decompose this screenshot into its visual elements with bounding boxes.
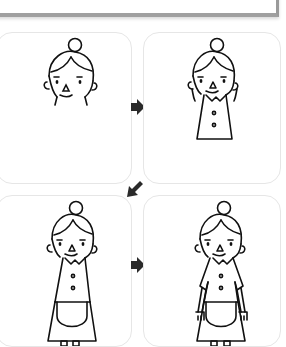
arrow-down-left-icon bbox=[127, 181, 143, 197]
complete-lady-drawing bbox=[144, 196, 280, 346]
dress-and-apron-drawing bbox=[0, 196, 131, 346]
step-panel-2: 2 bbox=[143, 32, 281, 184]
step-panel-1: 1 bbox=[0, 32, 132, 184]
header-box bbox=[0, 0, 279, 17]
step-panel-3: 3 bbox=[0, 195, 132, 347]
step-panel-4: 4 bbox=[143, 195, 281, 347]
head-and-dress-drawing bbox=[144, 33, 280, 183]
head-drawing bbox=[0, 33, 131, 183]
